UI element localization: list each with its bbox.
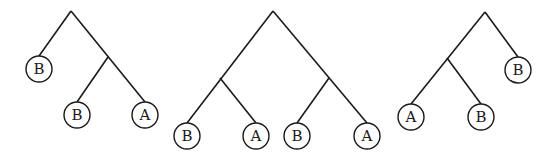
tree-2: B A B A (174, 11, 380, 149)
leaf-node: B (505, 57, 531, 83)
edge (411, 12, 485, 104)
leaf-node: B (284, 123, 310, 149)
leaf-label: B (181, 127, 192, 145)
edge (39, 11, 71, 56)
edge (297, 78, 329, 123)
edge (447, 58, 481, 104)
leaf-node: A (354, 123, 380, 149)
edge (71, 11, 145, 102)
leaf-label: B (512, 61, 523, 79)
tree-1: B B A (26, 11, 158, 128)
edge (273, 11, 367, 123)
leaf-node: B (468, 104, 494, 130)
leaf-label: A (250, 127, 262, 145)
tree-diagram: B B A B A B A (0, 0, 559, 161)
leaf-label: B (291, 127, 302, 145)
leaf-label: A (139, 106, 151, 124)
leaf-label: B (33, 60, 44, 78)
edge (187, 11, 273, 123)
leaf-node: A (243, 123, 269, 149)
leaf-node: B (26, 56, 52, 82)
leaf-label: B (71, 106, 82, 124)
leaf-node: A (398, 104, 424, 130)
leaf-node: A (132, 102, 158, 128)
leaf-node: B (174, 123, 200, 149)
edge (485, 12, 518, 57)
leaf-label: B (475, 108, 486, 126)
edge (77, 57, 108, 102)
leaf-label: A (361, 127, 373, 145)
tree-3: A B B (398, 12, 531, 130)
leaf-label: A (405, 108, 417, 126)
leaf-node: B (64, 102, 90, 128)
edge (220, 78, 256, 123)
